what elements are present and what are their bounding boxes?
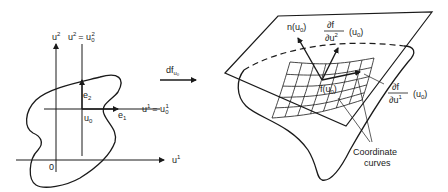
coordinate-curves-label-2: curves — [364, 158, 391, 168]
du1-numerator: ∂f — [392, 82, 399, 92]
e1-label: e1 — [118, 110, 127, 121]
coord-curve-leader-1 — [338, 98, 370, 142]
f-u0-label: f(u0) — [320, 84, 337, 95]
df-du1-label: ∂f ∂u1 (u0) — [388, 82, 427, 105]
e2-label: e2 — [83, 90, 92, 101]
coordinate-curve-u1 — [362, 58, 374, 100]
du2-argument: (u0) — [349, 27, 363, 38]
parameter-domain: u2 u2= u02 u1= u01 u1 0 u0 e2 e1 — [16, 31, 181, 187]
coordinate-curve-u1 — [336, 62, 350, 108]
u1-eq-label: u1= u01 — [142, 103, 169, 115]
coordinate-curves-label-1: Coordinate — [353, 147, 397, 157]
du2-numerator: ∂f — [327, 20, 334, 30]
df-du2-label: ∂f ∂u2 (u0) — [324, 20, 363, 43]
du2-denominator: ∂u2 — [325, 32, 338, 43]
u2-axis-label: u2 — [52, 31, 61, 42]
du1-denominator: ∂u1 — [389, 94, 402, 105]
normal-vector — [298, 38, 322, 80]
surface-map-diagram: u2 u2= u02 u1= u01 u1 0 u0 e2 e1 dfu₀ n(… — [0, 0, 448, 192]
u0-point-label: u0 — [84, 113, 93, 124]
differential-map-arrow: dfu₀ — [160, 65, 196, 80]
du1-argument: (u0) — [413, 89, 427, 100]
u1-axis-label: u1 — [172, 154, 181, 165]
map-arrow-label: dfu₀ — [166, 65, 180, 76]
u2-eq-label: u2= u02 — [68, 31, 95, 43]
normal-label: n(u0) — [287, 22, 306, 33]
domain-region-outline — [27, 75, 122, 187]
surface-back-edge — [244, 43, 404, 70]
coordinate-curve-u1 — [349, 60, 362, 104]
surface-panel: n(u0) ∂f ∂u2 (u0) ∂f ∂u1 (u0) f(u0) Coor… — [225, 12, 432, 180]
origin-label: 0 — [49, 162, 54, 172]
